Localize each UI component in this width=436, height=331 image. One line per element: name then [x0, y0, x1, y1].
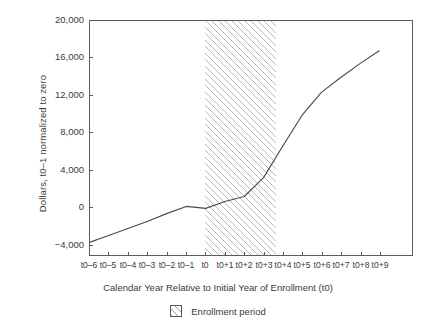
y-tick-label: 4,000 — [38, 165, 84, 175]
x-tick-label: t0–1 — [178, 260, 195, 270]
plot-area — [89, 20, 413, 256]
x-tick-label: t0+6 — [314, 260, 331, 270]
y-tick-label: 0 — [38, 202, 84, 212]
x-tick-label: t0+4 — [275, 260, 292, 270]
x-tick-label: t0–4 — [120, 260, 137, 270]
x-tick-label: t0–6 — [81, 260, 98, 270]
x-tick-label: t0–2 — [159, 260, 176, 270]
x-tick-label: t0–5 — [100, 260, 117, 270]
x-tick-label: t0+7 — [333, 260, 350, 270]
chart-figure: Dollars, t0–1 normalized to zero 20,000 … — [0, 0, 436, 331]
legend-swatch-enrollment-period — [170, 305, 182, 317]
x-tick-label: t0+5 — [294, 260, 311, 270]
legend-label-enrollment-period: Enrollment period — [191, 306, 265, 317]
y-tick-label: 16,000 — [38, 52, 84, 62]
data-line-series — [90, 21, 412, 255]
y-tick-label: 20,000 — [38, 15, 84, 25]
y-tick-label: 12,000 — [38, 90, 84, 100]
x-tick-label: t0+8 — [353, 260, 370, 270]
x-tick-label: t0+2 — [236, 260, 253, 270]
x-tick-label: t0–3 — [139, 260, 156, 270]
y-tick-label: 8,000 — [38, 127, 84, 137]
y-tick-label: −4,000 — [38, 240, 84, 250]
x-tick-label: t0+3 — [256, 260, 273, 270]
x-tick-label: t0+1 — [217, 260, 234, 270]
chart-legend: Enrollment period — [0, 305, 436, 317]
x-tick-label: t0 — [201, 260, 208, 270]
x-axis-title: Calendar Year Relative to Initial Year o… — [0, 282, 436, 293]
x-tick-label: t0+9 — [372, 260, 389, 270]
